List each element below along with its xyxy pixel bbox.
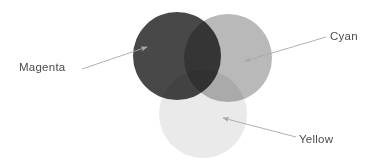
label-yellow: Yellow: [299, 134, 333, 146]
label-cyan: Cyan: [330, 31, 358, 43]
figure-canvas: Magenta Cyan Yellow: [0, 0, 383, 165]
venn-circles: [133, 12, 272, 158]
label-magenta: Magenta: [19, 62, 66, 74]
circle-yellow: [159, 70, 247, 158]
